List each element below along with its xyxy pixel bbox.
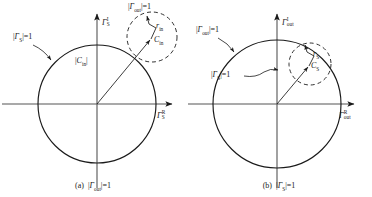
stability-circle-figure: ΓIS ΓRS |ΓS|=1 |Γout|=1 |Cin| rin Cin (a… [0,0,372,197]
axis-vertical-label: ΓIS [102,17,110,28]
center-point-label: CS [311,62,319,70]
radius-label: rS [313,50,319,58]
center-vector-arrow [277,67,308,104]
dashed-circle-label: |Γout|=1 [128,3,151,11]
unit-circle-leader [33,45,51,60]
panel-b-caption: (b) |ΓS|=1 [186,181,372,190]
unit-circle-label: |Γout|=1 [196,26,219,34]
panel-a-output-stability: ΓIS ΓRS |ΓS|=1 |Γout|=1 |Cin| rin Cin (a… [0,0,186,197]
axis-horizontal-label: ΓRout [339,110,351,121]
axis-horizontal-label: ΓRS [157,110,165,121]
panel-a-caption: (a) |Γout|=1 [0,181,186,190]
dashed-circle-leader [244,69,278,76]
unit-circle-label: |ΓS|=1 [13,33,32,41]
center-vector-label: |Cin| [75,57,88,65]
center-point-label: Cin [154,36,163,44]
center-vector-arrow [97,40,150,104]
unit-circle-leader [218,38,234,52]
axis-vertical-label: ΓIout [282,17,294,28]
radius-label: rin [156,22,163,30]
panel-b-source-stability: ΓIout ΓRout |Γout|=1 |ΓS|=1 rS CS (b) |Γ… [186,0,372,197]
dashed-circle-label: |ΓS|=1 [211,71,230,79]
